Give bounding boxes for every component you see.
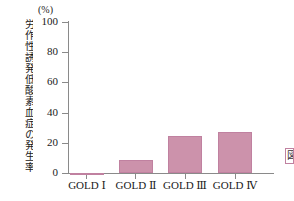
y-tick-mark-80: [62, 52, 68, 53]
y-tick-mark-20: [62, 143, 68, 144]
y-tick-label-40: 40: [18, 107, 58, 118]
y-tick-label-100: 100: [18, 16, 58, 27]
y-tick-label-80: 80: [18, 46, 58, 57]
y-axis-line: [68, 21, 69, 174]
cropped-edge-marker: 図: [285, 148, 294, 164]
x-label-gold-1: GOLD Ⅰ: [61, 180, 113, 191]
y-tick-mark-100: [62, 22, 68, 23]
y-tick-label-20: 20: [18, 137, 58, 148]
y-tick-label-0: 0: [18, 167, 58, 178]
bar-gold-2: [119, 160, 153, 173]
x-label-gold-2: GOLD Ⅱ: [110, 180, 162, 191]
y-tick-label-60: 60: [18, 76, 58, 87]
x-label-gold-4: GOLD Ⅳ: [209, 180, 261, 191]
bar-chart-figure: (%) 労作性誘発低酸素血症の発生率 100 80 60 40 20 0 GOL…: [0, 0, 294, 201]
bar-gold-4: [218, 132, 252, 173]
y-tick-mark-0: [62, 173, 68, 174]
y-axis-title: 労作性誘発低酸素血症の発生率: [17, 19, 33, 175]
y-tick-mark-40: [62, 113, 68, 114]
x-label-gold-3: GOLD Ⅲ: [159, 180, 211, 191]
bar-gold-1: [70, 173, 104, 175]
bar-gold-3: [168, 136, 202, 173]
cropped-edge-marker-glyph: 図: [287, 149, 294, 163]
y-tick-mark-60: [62, 82, 68, 83]
y-axis-unit-label: (%): [38, 4, 53, 15]
